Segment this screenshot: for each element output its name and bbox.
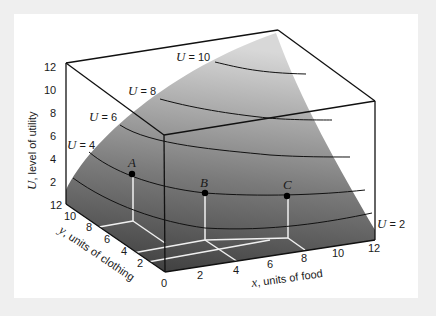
svg-text:4: 4 — [121, 245, 127, 257]
point-c — [284, 193, 290, 199]
label-u6: U = 6 — [89, 109, 117, 124]
svg-text:2: 2 — [197, 269, 203, 281]
point-b-label: B — [200, 175, 208, 190]
point-a-label: A — [127, 155, 136, 170]
svg-text:12: 12 — [368, 242, 380, 254]
point-b — [202, 190, 208, 196]
svg-text:2: 2 — [137, 257, 143, 269]
svg-text:6: 6 — [104, 233, 110, 245]
label-u4: U = 4 — [67, 137, 95, 152]
svg-text:10: 10 — [332, 247, 344, 259]
z-axis-ticks: 2 4 6 8 10 12 — [44, 61, 56, 188]
svg-text:12: 12 — [50, 199, 62, 211]
svg-text:10: 10 — [64, 210, 76, 222]
svg-text:10: 10 — [44, 84, 56, 96]
x-axis-label: x, units of food — [249, 265, 323, 290]
point-c-label: C — [283, 177, 292, 192]
svg-text:4: 4 — [50, 153, 56, 165]
label-u8: U = 8 — [128, 83, 156, 98]
svg-text:8: 8 — [50, 107, 56, 119]
label-u10: U = 10 — [176, 49, 210, 64]
svg-text:12: 12 — [44, 61, 56, 73]
label-u2: U = 2 — [377, 216, 405, 231]
point-a — [129, 171, 135, 177]
svg-text:0: 0 — [161, 277, 167, 289]
svg-text:2: 2 — [50, 176, 56, 188]
svg-text:8: 8 — [86, 221, 92, 233]
utility-surface-diagram: A B C U = 2 U = 4 U = 6 U = 8 U = 10 2 4… — [0, 0, 436, 316]
svg-text:4: 4 — [233, 264, 239, 276]
svg-text:8: 8 — [301, 252, 307, 264]
svg-text:6: 6 — [267, 258, 273, 270]
z-axis-label: U, level of utility — [24, 111, 39, 190]
svg-text:6: 6 — [50, 130, 56, 142]
